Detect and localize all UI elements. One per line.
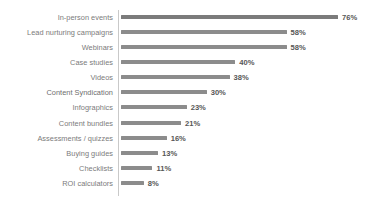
bar-track (121, 176, 144, 191)
category-label: ROI calculators (0, 176, 113, 191)
bar-value-label: 58% (291, 40, 306, 55)
category-label: Buying guides (0, 146, 113, 161)
bar-fill (121, 15, 338, 19)
category-label: Checklists (0, 161, 113, 176)
bar-track (121, 70, 230, 85)
bar-value-label: 13% (162, 146, 177, 161)
category-label: Lead nurturing campaigns (0, 25, 113, 40)
bar-row: Webinars58% (0, 40, 374, 55)
bar-row: Case studies40% (0, 55, 374, 70)
category-label: Videos (0, 70, 113, 85)
category-label: Content Syndication (0, 85, 113, 100)
bar-fill (121, 136, 167, 140)
category-label: Case studies (0, 55, 113, 70)
bar-fill (121, 60, 235, 64)
bar-track (121, 25, 287, 40)
bar-track (121, 55, 235, 70)
bar-row: Content Syndication30% (0, 85, 374, 100)
bar-row: Lead nurturing campaigns58% (0, 25, 374, 40)
bar-fill (121, 181, 144, 185)
category-label: In-person events (0, 10, 113, 25)
category-label: Content bundles (0, 116, 113, 131)
bar-track (121, 40, 287, 55)
bar-value-label: 40% (239, 55, 254, 70)
horizontal-bar-chart: In-person events76%Lead nurturing campai… (0, 0, 374, 209)
bar-value-label: 58% (291, 25, 306, 40)
bar-fill (121, 30, 287, 34)
bar-fill (121, 75, 230, 79)
bar-value-label: 38% (234, 70, 249, 85)
bar-row: Infographics23% (0, 100, 374, 115)
bar-fill (121, 45, 287, 49)
bar-fill (121, 151, 158, 155)
bar-track (121, 10, 338, 25)
bar-row: ROI calculators8% (0, 176, 374, 191)
category-label: Webinars (0, 40, 113, 55)
bar-value-label: 11% (156, 161, 171, 176)
bar-row: Videos38% (0, 70, 374, 85)
bar-track (121, 116, 181, 131)
plot-area: In-person events76%Lead nurturing campai… (0, 0, 374, 209)
bar-track (121, 85, 207, 100)
bar-row: Checklists11% (0, 161, 374, 176)
bar-row: Content bundles21% (0, 116, 374, 131)
bar-fill (121, 90, 207, 94)
bar-fill (121, 121, 181, 125)
category-label: Assessments / quizzes (0, 131, 113, 146)
bar-value-label: 16% (171, 131, 186, 146)
bar-row: Assessments / quizzes16% (0, 131, 374, 146)
bar-row: In-person events76% (0, 10, 374, 25)
bar-fill (121, 166, 152, 170)
bar-track (121, 100, 187, 115)
bar-track (121, 131, 167, 146)
bar-value-label: 30% (211, 85, 226, 100)
bar-track (121, 161, 152, 176)
category-label: Infographics (0, 100, 113, 115)
bar-value-label: 23% (191, 100, 206, 115)
bar-track (121, 146, 158, 161)
bar-value-label: 21% (185, 116, 200, 131)
bar-value-label: 8% (148, 176, 159, 191)
bar-fill (121, 105, 187, 109)
bar-value-label: 76% (342, 10, 357, 25)
bar-row: Buying guides13% (0, 146, 374, 161)
